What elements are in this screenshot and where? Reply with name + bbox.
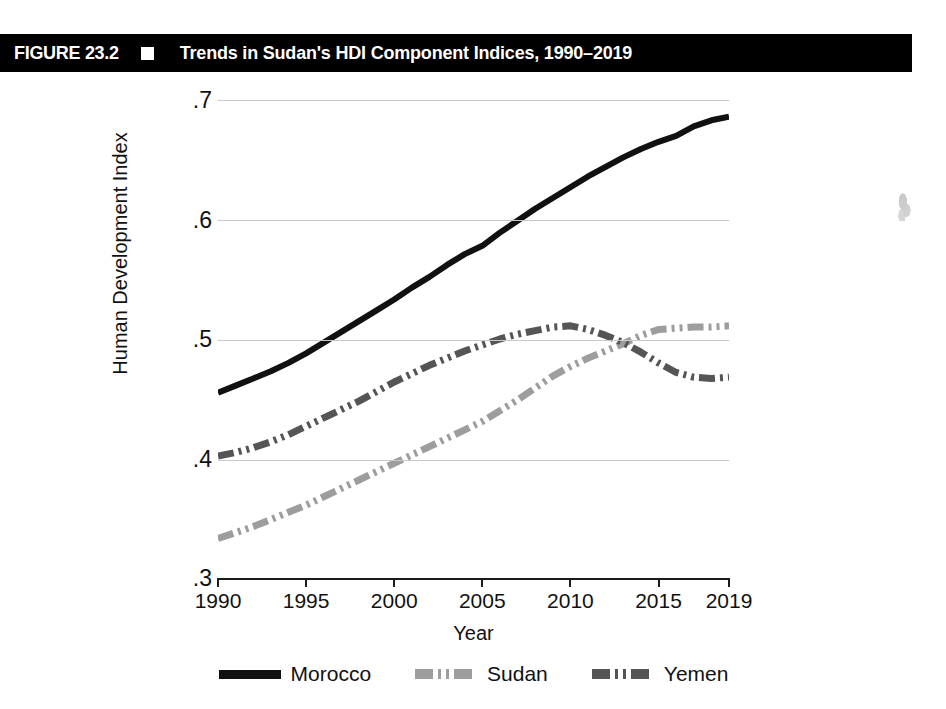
legend-label-yemen: Yemen <box>664 662 729 686</box>
series-line-morocco <box>218 117 729 393</box>
x-tick-2019 <box>728 578 730 587</box>
x-tick-2015 <box>658 578 660 587</box>
figure-page: FIGURE 23.2 Trends in Sudan's HDI Compon… <box>0 0 946 709</box>
y-tick-label-.5: .5 <box>166 326 212 353</box>
plot-area <box>218 100 729 578</box>
legend-item-yemen[interactable]: Yemen <box>592 662 729 686</box>
chart-legend: MoroccoSudanYemen <box>218 662 729 686</box>
x-tick-2000 <box>393 578 395 587</box>
gridline-0.7 <box>218 100 729 101</box>
y-tick-label-.4: .4 <box>166 445 212 472</box>
square-bullet-icon <box>141 47 154 60</box>
x-tick-label-2015: 2015 <box>635 589 682 613</box>
x-axis-line <box>218 578 729 580</box>
scan-artifact-speck <box>896 193 913 221</box>
chart-canvas: Human Development Index 1990199520002005… <box>0 72 946 709</box>
legend-label-morocco: Morocco <box>291 662 372 686</box>
figure-number-label: FIGURE 23.2 <box>14 43 119 64</box>
legend-swatch-sudan-icon <box>415 669 477 679</box>
x-tick-2005 <box>481 578 483 587</box>
x-tick-label-2005: 2005 <box>459 589 506 613</box>
legend-label-sudan: Sudan <box>487 662 548 686</box>
x-tick-2010 <box>569 578 571 587</box>
gridline-0.4 <box>218 460 729 461</box>
series-line-yemen <box>218 326 729 456</box>
x-tick-1990 <box>217 578 219 587</box>
legend-item-sudan[interactable]: Sudan <box>415 662 548 686</box>
legend-swatch-yemen-icon <box>592 669 654 679</box>
legend-item-morocco[interactable]: Morocco <box>219 662 372 686</box>
figure-title-bar: FIGURE 23.2 Trends in Sudan's HDI Compon… <box>0 34 912 72</box>
x-tick-1995 <box>305 578 307 587</box>
x-tick-label-1990: 1990 <box>195 589 242 613</box>
figure-title-text: Trends in Sudan's HDI Component Indices,… <box>180 43 632 64</box>
legend-swatch-morocco-icon <box>219 670 281 679</box>
x-axis-title: Year <box>218 622 729 645</box>
gridline-0.5 <box>218 340 729 341</box>
x-tick-label-2000: 2000 <box>371 589 418 613</box>
y-tick-label-.7: .7 <box>166 87 212 114</box>
y-tick-label-.3: .3 <box>166 565 212 592</box>
gridline-0.6 <box>218 220 729 221</box>
y-tick-label-.6: .6 <box>166 206 212 233</box>
x-tick-label-2019: 2019 <box>706 589 753 613</box>
series-lines <box>218 100 729 578</box>
x-tick-label-2010: 2010 <box>547 589 594 613</box>
x-tick-label-1995: 1995 <box>283 589 330 613</box>
y-axis-title: Human Development Index <box>109 94 132 414</box>
